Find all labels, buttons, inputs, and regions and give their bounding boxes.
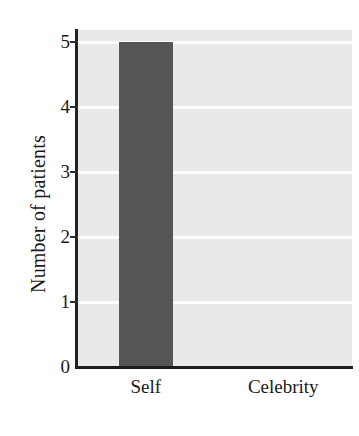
bar: [119, 42, 173, 367]
y-axis-tick-label: 3: [44, 162, 70, 181]
y-axis-tick-mark: [70, 171, 78, 173]
y-axis-tick-label: 5: [44, 32, 70, 51]
x-axis-tick-label-group: SelfCelebrity: [77, 374, 352, 404]
y-axis-tick-label: 4: [44, 97, 70, 116]
y-axis-tick-label: 2: [44, 227, 70, 246]
y-axis-line: [75, 29, 78, 369]
plot-area: [77, 30, 352, 367]
y-axis-tick-mark: [70, 236, 78, 238]
y-axis-tick-mark: [70, 301, 78, 303]
y-axis-tick-mark: [70, 41, 78, 43]
bar-chart: Number of patients 012345 SelfCelebrity: [0, 0, 359, 436]
x-axis-line: [75, 366, 353, 369]
y-axis-tick-label-group: 012345: [44, 30, 70, 368]
y-axis-tick-label: 1: [44, 292, 70, 311]
x-axis-tick-label: Celebrity: [215, 374, 353, 400]
y-axis-tick-label: 0: [44, 357, 70, 376]
y-axis-tick-mark: [70, 106, 78, 108]
x-axis-tick-label: Self: [77, 374, 215, 400]
